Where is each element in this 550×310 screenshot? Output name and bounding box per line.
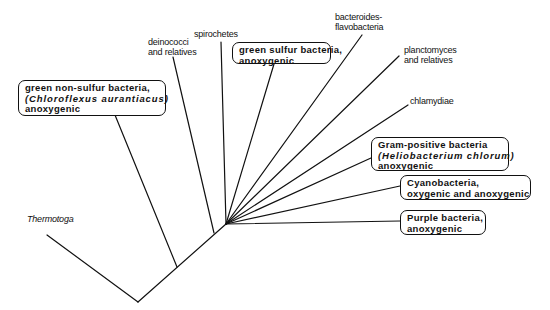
label-deinococci: deinococci and relatives (148, 37, 196, 57)
label-line: green non-sulfur bacteria, (25, 83, 159, 94)
box-green-non-sulfur: green non-sulfur bacteria, (Chloroflexus… (18, 80, 166, 116)
label-line: anoxygenic (407, 224, 479, 235)
branch-purple (226, 221, 400, 224)
label-line: spirochetes (194, 29, 238, 39)
label-line: anoxygenic (378, 161, 502, 172)
label-line: bacteroides- (335, 12, 383, 22)
label-line: flavobacteria (335, 22, 383, 32)
box-purple: Purple bacteria, anoxygenic (400, 210, 486, 235)
branch-deinococci (173, 57, 214, 233)
branch-gram-positive (226, 158, 371, 224)
branch-trunk (138, 224, 226, 302)
branch-thermotoga (47, 235, 138, 302)
branch-green-non-sulfur (115, 115, 177, 267)
label-line: deinococci (148, 37, 196, 47)
label-line: oxygenic and anoxygenic (407, 189, 524, 200)
branch-spirochetes (221, 42, 226, 224)
label-spirochetes: spirochetes (194, 29, 238, 39)
label-chlamydiae: chlamydiae (410, 96, 454, 106)
label-line: and relatives (404, 55, 457, 65)
label-line: Cyanobacteria, (407, 178, 524, 189)
label-line: anoxygenic (25, 104, 159, 115)
label-line: Gram-positive bacteria (378, 140, 502, 151)
box-green-sulfur: green sulfur bacteria, anoxygenic (232, 42, 331, 64)
box-gram-positive: Gram-positive bacteria (Heliobacterium c… (371, 137, 509, 171)
label-line: green sulfur bacteria, (239, 45, 324, 56)
box-cyanobacteria: Cyanobacteria, oxygenic and anoxygenic (400, 175, 531, 200)
label-bacteroides: bacteroides- flavobacteria (335, 12, 383, 32)
label-line: anoxygenic (239, 56, 324, 67)
label-line: chlamydiae (410, 96, 454, 106)
label-line: planctomyces (404, 45, 457, 55)
label-line: Purple bacteria, (407, 213, 479, 224)
label-thermotoga: Thermotoga (27, 214, 74, 224)
label-line: and relatives (148, 47, 196, 57)
label-planctomyces: planctomyces and relatives (404, 45, 457, 65)
branch-cyanobacteria (226, 186, 400, 224)
label-line: Thermotoga (27, 214, 74, 224)
